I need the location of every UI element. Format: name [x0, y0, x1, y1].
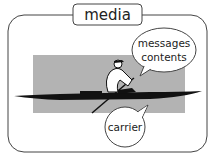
carrier-label: carrier	[108, 121, 143, 133]
bubble-line-1: messages	[138, 37, 191, 49]
bubble-line-2: contents	[141, 51, 187, 63]
diagram-title: media	[84, 6, 131, 24]
title-tab: media	[73, 4, 142, 25]
media-diagram: messages contents carrier media	[0, 0, 216, 160]
